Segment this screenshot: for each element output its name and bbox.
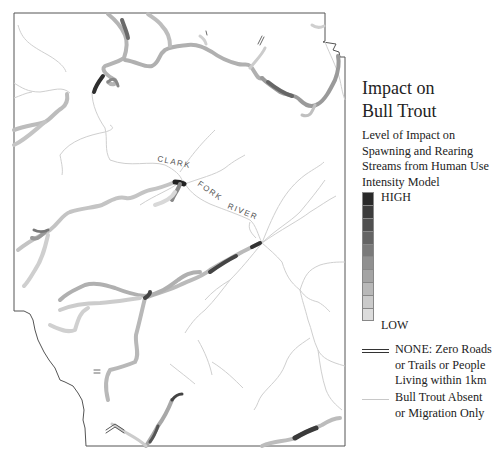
scale-swatch (362, 205, 374, 218)
double-line-symbol-icon (362, 349, 389, 353)
impact-color-scale (362, 192, 374, 321)
thin-line-symbol-icon (362, 399, 389, 400)
legend-title-line2: Bull Trout (362, 100, 496, 123)
legend-title: Impact on Bull Trout (362, 77, 496, 123)
scale-swatch (362, 218, 374, 231)
legend-text-line: Bull Trout Absent (395, 390, 496, 406)
scale-swatch (362, 256, 374, 269)
legend-text-line: Living within 1km (395, 373, 496, 389)
river-label-clark: CLARK (157, 154, 192, 170)
legend-subtitle-line: Spawning and Rearing (362, 144, 496, 160)
scale-swatch (362, 295, 374, 308)
legend-text-line: or Trails or People (395, 358, 496, 374)
study-area-boundary (14, 13, 345, 446)
legend-title-line1: Impact on (362, 77, 496, 100)
legend-item-absent-text: Bull Trout Absent or Migration Only (395, 390, 496, 421)
legend-text-line: or Migration Only (395, 406, 496, 422)
scale-high-label: HIGH (381, 190, 411, 205)
river-label-river: RIVER (226, 202, 259, 222)
scale-swatch (362, 269, 374, 282)
scale-low-label: LOW (381, 318, 408, 333)
scale-swatch (362, 231, 374, 244)
legend-subtitle-line: Level of Impact on (362, 128, 496, 144)
scale-swatch (362, 282, 374, 295)
river-label: CLARK FORK RIVER (157, 154, 260, 222)
scale-swatch (362, 192, 374, 205)
legend-text-line: NONE: Zero Roads (395, 342, 496, 358)
legend-subtitle-line: Intensity Model (362, 175, 496, 191)
river-label-fork: FORK (196, 179, 224, 203)
legend-item-none-text: NONE: Zero Roads or Trails or People Liv… (395, 342, 496, 389)
legend-subtitle: Level of Impact on Spawning and Rearing … (362, 128, 496, 190)
scale-swatch (362, 308, 374, 321)
scale-swatch (362, 244, 374, 257)
legend-subtitle-line: Streams from Human Use (362, 159, 496, 175)
